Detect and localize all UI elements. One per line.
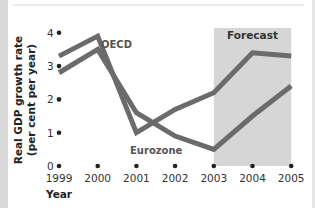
y-tick-label: 3	[47, 60, 54, 72]
x-tick-label: 2001	[123, 172, 150, 184]
x-tick-label: 2002	[162, 172, 189, 184]
y-tick-label: 0	[47, 160, 54, 172]
y-tick-dot	[57, 64, 62, 69]
x-tick-dot	[289, 164, 294, 169]
y-tick-dot	[57, 164, 62, 169]
x-tick-dot	[212, 164, 217, 169]
x-tick-dot	[173, 164, 178, 169]
x-tick-label: 2003	[200, 172, 227, 184]
x-axis-ticks: 1999200020012002200320042005	[46, 164, 305, 184]
x-tick-label: 1999	[46, 172, 73, 184]
x-axis-label: Year	[45, 188, 73, 200]
x-tick-dot	[95, 164, 100, 169]
gdp-line-chart: Forecast Real GDP growth rate (per cent …	[0, 0, 315, 208]
x-tick-label: 2005	[278, 172, 305, 184]
x-tick-label: 2000	[84, 172, 111, 184]
y-axis-label: Real GDP growth rate (per cent per year)	[12, 36, 37, 164]
x-tick-dot	[250, 164, 255, 169]
y-tick-dot	[57, 97, 62, 102]
series-label-oecd: OECD	[101, 39, 132, 50]
y-axis-label-line1: Real GDP growth rate	[12, 36, 24, 164]
x-tick-label: 2004	[239, 172, 266, 184]
y-tick-dot	[57, 130, 62, 135]
y-tick-label: 2	[47, 93, 54, 105]
x-tick-dot	[134, 164, 139, 169]
y-tick-label: 1	[47, 127, 54, 139]
y-axis-ticks: 01234	[47, 27, 61, 172]
y-axis-label-line2: (per cent per year)	[25, 44, 37, 156]
y-tick-label: 4	[47, 27, 54, 39]
forecast-label: Forecast	[227, 29, 278, 41]
series-label-eurozone: Eurozone	[130, 145, 183, 156]
y-tick-dot	[57, 31, 62, 36]
